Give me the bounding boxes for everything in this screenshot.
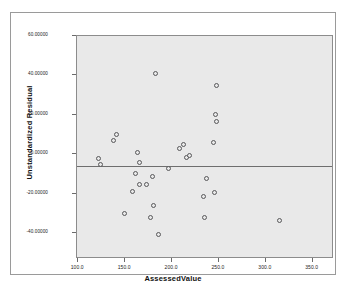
data-point	[214, 119, 219, 124]
x-axis-tick	[312, 258, 313, 262]
y-axis-title: Unstandardized Residual	[25, 53, 34, 213]
data-point	[133, 171, 138, 176]
plot-area	[76, 35, 333, 258]
data-point	[213, 112, 218, 117]
data-point	[153, 71, 158, 76]
data-point	[211, 140, 216, 145]
scatter-chart-figure: Unstandardized Residual 60.0000040.00000…	[0, 0, 347, 290]
data-point	[98, 162, 103, 167]
data-point	[212, 190, 217, 195]
x-axis-tick-label: 250.0	[211, 264, 224, 270]
data-point	[177, 146, 182, 151]
y-axis-tick-label: -20.00000	[26, 190, 48, 195]
data-point	[201, 194, 206, 199]
data-point	[111, 138, 116, 143]
x-axis-tick	[265, 258, 266, 262]
data-point	[137, 182, 142, 187]
y-axis-tick-label: 40.00000	[28, 71, 48, 76]
data-point	[150, 174, 155, 179]
y-axis-tick-label: 20.00000	[28, 111, 48, 116]
x-axis-tick	[77, 258, 78, 262]
y-axis-tick-label: -40.00000	[26, 229, 48, 234]
chart-outer-frame: Unstandardized Residual 60.0000040.00000…	[10, 12, 336, 275]
data-point	[156, 232, 161, 237]
x-axis-tick-label: 150.0	[118, 264, 131, 270]
data-point	[187, 153, 192, 158]
x-axis-tick-label: 350.0	[305, 264, 318, 270]
data-point	[96, 156, 101, 161]
x-axis-title: AssessedValue	[11, 274, 335, 283]
data-point	[130, 189, 135, 194]
data-point	[181, 142, 186, 147]
x-axis-tick	[124, 258, 125, 262]
data-point	[144, 182, 149, 187]
data-point	[277, 218, 282, 223]
y-axis-tick-label: 0.00000	[31, 150, 48, 155]
data-point	[202, 215, 207, 220]
x-axis-tick	[218, 258, 219, 262]
data-point	[114, 132, 119, 137]
data-point	[122, 211, 127, 216]
data-point	[166, 166, 171, 171]
data-point	[204, 176, 209, 181]
x-axis-tick-label: 100.0	[71, 264, 84, 270]
data-point	[135, 150, 140, 155]
data-point	[137, 160, 142, 165]
data-point	[148, 215, 153, 220]
y-axis-tick-label: 60.00000	[28, 32, 48, 37]
x-axis-tick-label: 300.0	[258, 264, 271, 270]
zero-reference-line	[77, 166, 332, 167]
x-axis-tick	[171, 258, 172, 262]
data-point	[214, 83, 219, 88]
x-axis-tick-label: 200.0	[165, 264, 178, 270]
data-point	[151, 203, 156, 208]
